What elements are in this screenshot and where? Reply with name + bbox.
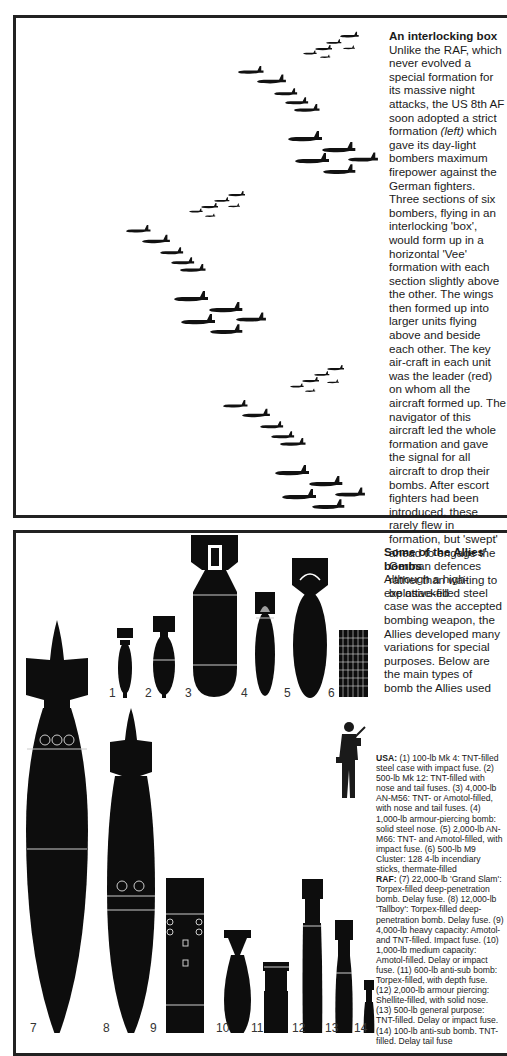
bomb-9 [166,878,204,1033]
bomb-5 [292,558,328,698]
usa-label: USA: [376,753,397,763]
formation-title: An interlocking box [389,29,507,43]
bomb-1 [117,628,133,698]
bomb-13 [335,920,353,1033]
usa-text: (1) 100-lb Mk 4: TNT-filled steel case w… [376,753,502,874]
bombs-caption: Some of the Allies' bombs Although a hig… [384,545,502,695]
bomb-label-4: 4 [241,686,248,700]
bomb-12 [302,879,323,1033]
raf-text: (7) 22,000-lb 'Grand Slam': Torpex-fille… [376,874,504,1046]
bomb-8 [107,708,155,1033]
bomber-silhouettes [126,32,378,509]
bomb-label-14: 14 [354,1021,368,1033]
bomb-label-13: 13 [325,1021,339,1033]
bomb-2 [153,616,175,698]
bomb-6 [339,630,368,697]
bombs-intro: Although a high-explosive-filled steel c… [384,572,502,694]
bombs-title: Some of the Allies' bombs [384,545,502,572]
bomb-label-9: 9 [150,1021,157,1033]
bomb-label-1: 1 [109,686,116,700]
bomb-10 [224,930,251,1033]
formation-caption: An interlocking box Unlike the RAF, whic… [389,29,507,600]
bomb-label-11: 11 [251,1021,264,1033]
bombs-key-list: USA: (1) 100-lb Mk 4: TNT-filled steel c… [376,753,504,1046]
bomb-3 [191,535,238,697]
bombs-illustration [26,535,374,1033]
bomb-label-2: 2 [145,686,152,700]
raf-label: RAF: [376,874,397,884]
bomb-label-7: 7 [30,1021,37,1033]
bomb-label-3: 3 [185,686,192,700]
soldier-scale-figure [336,722,365,798]
bomb-label-12: 12 [292,1021,306,1033]
bomb-label-5: 5 [284,686,291,700]
bomb-11 [263,962,289,1033]
bomb-label-6: 6 [328,686,335,700]
bomb-7 [26,620,88,1033]
formation-body-2: which gave its day-light bombers maximum… [389,124,506,599]
bomb-label-8: 8 [103,1021,110,1033]
bomb-label-10: 10 [216,1021,230,1033]
bomb-4 [255,592,275,696]
formation-body-italic: (left) [441,124,464,137]
formation-body-1: Unlike the RAF, which never evolved a sp… [389,43,504,138]
